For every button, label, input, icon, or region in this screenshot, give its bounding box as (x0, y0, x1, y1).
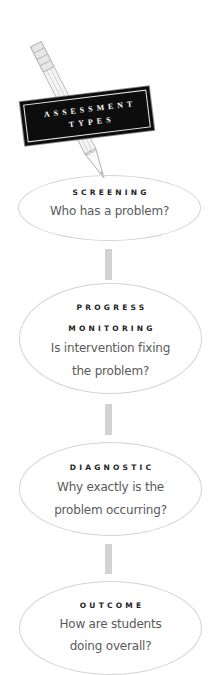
connector-2 (105, 404, 112, 435)
outcome-heading: OUTCOME (20, 601, 201, 610)
progress-monitoring-question-line-2: the problem? (20, 364, 201, 378)
connector-3 (105, 544, 112, 574)
screening-ellipse: SCREENING Who has a problem? (18, 175, 201, 241)
diagnostic-heading: DIAGNOSTIC (20, 463, 201, 472)
screening-question: Who has a problem? (19, 204, 200, 218)
outcome-ellipse: OUTCOME How are students doing overall? (19, 581, 202, 675)
outcome-question-line-2: doing overall? (20, 639, 201, 653)
outcome-question-line-1: How are students (20, 617, 201, 631)
diagnostic-question-line-1: Why exactly is the (20, 480, 201, 494)
screening-heading: SCREENING (19, 188, 200, 197)
progress-monitoring-heading-line-1: PROGRESS (20, 303, 201, 312)
diagnostic-question-line-2: problem occurring? (20, 503, 201, 517)
diagnostic-ellipse: DIAGNOSTIC Why exactly is the problem oc… (19, 442, 202, 536)
connector-1 (105, 249, 112, 280)
progress-monitoring-heading-line-2: MONITORING (20, 324, 201, 333)
progress-monitoring-question-line-1: Is intervention fixing (20, 341, 201, 355)
progress-monitoring-ellipse: PROGRESS MONITORING Is intervention fixi… (19, 283, 202, 394)
